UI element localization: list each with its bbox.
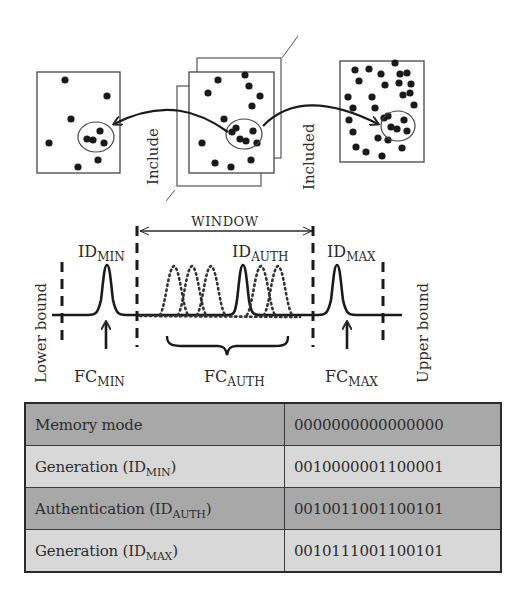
row-label: Authentication (IDAUTH)	[25, 488, 285, 530]
table-row-authentication: Authentication (IDAUTH) 0010011001100101	[25, 488, 501, 530]
row-label: Generation (IDMIN)	[25, 446, 285, 488]
diagram-canvas: Include Included WINDOW IDMIN IDAUTH IDM…	[0, 0, 522, 400]
stack-diagonal-top	[282, 36, 298, 58]
stack-diagonal-bottom	[166, 190, 175, 201]
middle-population-stack	[166, 36, 298, 201]
row-value: 0000000000000000	[285, 403, 502, 446]
row-value: 0010111001100101	[285, 530, 502, 573]
id-min-label: IDMIN	[78, 242, 125, 264]
table-row-generation-max: Generation (IDMAX) 0010111001100101	[25, 530, 501, 573]
right-population-panel	[340, 59, 424, 162]
include-label: Include	[144, 128, 162, 185]
window-label: WINDOW	[191, 214, 258, 229]
table-row-memory-mode: Memory mode 0000000000000000	[25, 403, 501, 446]
lower-bound-label: Lower bound	[32, 282, 50, 383]
included-label: Included	[300, 123, 318, 190]
fc-auth-label: FCAUTH	[204, 367, 265, 389]
id-auth-label: IDAUTH	[232, 242, 288, 264]
fc-auth-dotted-peaks	[140, 266, 300, 317]
row-label: Generation (IDMAX)	[25, 530, 285, 573]
row-value: 0010000001100001	[285, 446, 502, 488]
fc-max-label: FCMAX	[325, 367, 378, 389]
fc-auth-brace	[167, 336, 288, 355]
row-value: 0010011001100101	[285, 488, 502, 530]
upper-bound-label: Upper bound	[414, 282, 432, 383]
id-max-label: IDMAX	[327, 242, 376, 264]
id-table: Memory mode 0000000000000000 Generation …	[24, 402, 502, 573]
fc-min-label: FCMIN	[74, 367, 125, 389]
window-indicator: WINDOW	[140, 214, 312, 231]
left-population-panel	[37, 72, 120, 173]
signal-trace	[52, 265, 402, 315]
table-row-generation-min: Generation (IDMIN) 0010000001100001	[25, 446, 501, 488]
row-label: Memory mode	[25, 403, 285, 446]
